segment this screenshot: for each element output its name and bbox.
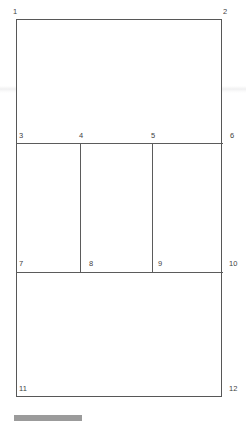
diagram-outer-frame	[16, 19, 222, 397]
grid-diagram-canvas: 1 2 3 4 5 6 7 8 9 10 11 12	[0, 0, 246, 425]
corner-label-2: 2	[223, 8, 227, 16]
corner-label-10: 10	[229, 260, 238, 268]
vertical-divider-right	[152, 143, 153, 273]
corner-label-7: 7	[19, 260, 23, 268]
corner-label-9: 9	[158, 260, 162, 268]
corner-label-1: 1	[13, 8, 17, 16]
corner-label-4: 4	[79, 132, 83, 140]
horizontal-divider-lower	[16, 272, 223, 273]
horizontal-divider-upper	[16, 143, 223, 144]
scrollbar-thumb[interactable]	[14, 415, 82, 421]
corner-label-8: 8	[89, 260, 93, 268]
corner-label-12: 12	[229, 385, 238, 393]
corner-label-3: 3	[19, 132, 23, 140]
corner-label-5: 5	[151, 132, 155, 140]
corner-label-11: 11	[19, 385, 27, 393]
corner-label-6: 6	[230, 132, 234, 140]
vertical-divider-left	[80, 143, 81, 273]
